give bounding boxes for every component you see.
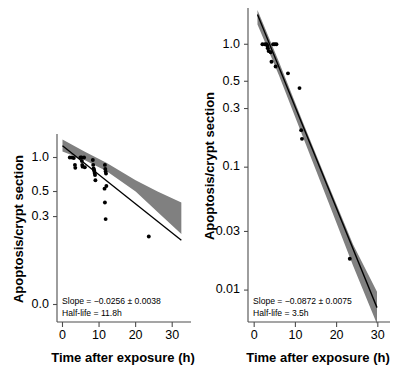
annotation-halflife: Half-life = 3.5h [253,308,309,318]
data-point [147,235,151,239]
chart-panel-right: 1.00.50.30.10.030.010102030Time after ex… [196,0,399,375]
y-axis-title: Apoptosis/crypt section [202,92,217,240]
x-axis-tick-label: 10 [288,328,302,342]
data-point [286,71,290,75]
data-point [300,137,304,141]
scatter-plot-left: 1.00.50.30.00102030Time after exposure (… [0,0,196,375]
y-axis-tick-label: 1.0 [223,37,240,51]
data-point [82,156,86,160]
data-point [103,187,107,191]
data-point [299,128,303,132]
data-point [91,163,95,167]
data-point [93,173,97,177]
data-point [298,86,302,90]
data-point [274,42,278,46]
chart-panel-left: 1.00.50.30.00102030Time after exposure (… [0,0,196,375]
data-point [73,166,77,170]
plot-area-left [62,140,181,241]
regression-line [257,14,377,307]
y-axis-tick-label: 0.5 [32,184,49,198]
y-axis-tick-label: 0.01 [216,282,240,296]
y-axis-tick-label: 0.03 [216,224,240,238]
data-point [104,172,108,176]
x-axis-tick-label: 0 [59,328,66,342]
y-axis-tick-label: 0.1 [223,159,240,173]
plot-area-right [257,10,377,324]
data-point [269,50,273,54]
y-axis-title: Apoptosis/crypt section [11,155,26,303]
annotation-halflife: Half-life = 11.8h [62,308,122,318]
x-axis-tick-label: 30 [371,328,385,342]
data-point [80,159,84,163]
data-point [270,60,274,64]
y-axis-tick-label: 0.5 [223,74,240,88]
data-point [72,156,76,160]
y-axis-tick-label: 0.0 [32,297,49,311]
figure-container: 1.00.50.30.00102030Time after exposure (… [0,0,399,375]
annotation-slope: Slope = −0.0872 ± 0.0075 [253,296,352,306]
data-point [274,64,278,68]
y-axis-tick-label: 0.3 [32,209,49,223]
x-axis-tick-label: 20 [330,328,344,342]
data-point [83,165,87,169]
data-point [93,178,97,182]
y-axis-tick-label: 1.0 [32,150,49,164]
y-axis-tick-label: 0.3 [223,101,240,115]
x-axis-title: Time after exposure (h) [51,350,195,365]
x-axis-tick-label: 20 [129,328,143,342]
data-point [91,158,95,162]
confidence-band [62,140,181,234]
data-point [103,201,107,205]
x-axis-tick-label: 30 [165,328,179,342]
data-point [104,217,108,221]
annotation-slope: Slope = −0.0256 ± 0.0038 [62,296,161,306]
data-point [348,257,352,261]
scatter-plot-right: 1.00.50.30.10.030.010102030Time after ex… [196,0,399,375]
data-point [103,163,107,167]
x-axis-tick-label: 10 [92,328,106,342]
x-axis-title: Time after exposure (h) [246,350,390,365]
x-axis-tick-label: 0 [251,328,258,342]
